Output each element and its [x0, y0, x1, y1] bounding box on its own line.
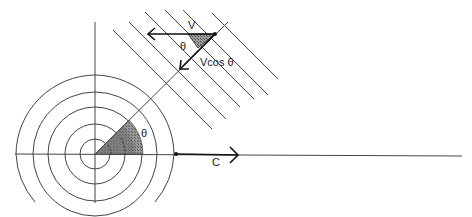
- diagram-canvas: V θ Vcos θ θ C: [0, 0, 472, 217]
- label-theta-top: θ: [180, 40, 186, 52]
- doppler-diagram: V θ Vcos θ θ C: [0, 0, 472, 217]
- label-v: V: [188, 19, 196, 31]
- label-vcos-theta: Vcos θ: [200, 56, 234, 68]
- label-c: C: [212, 156, 220, 168]
- label-theta-origin: θ: [141, 127, 147, 139]
